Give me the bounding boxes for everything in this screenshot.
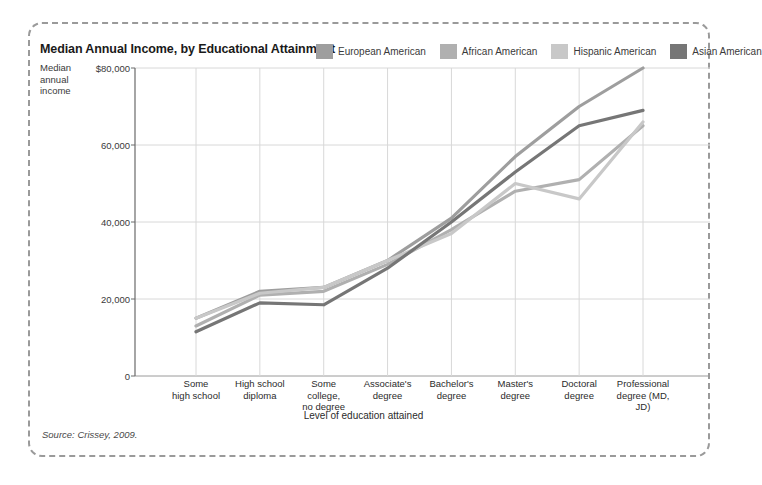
source-note: Source: Crissey, 2009.: [42, 429, 137, 440]
x-tick-label-line: Professional: [600, 378, 686, 390]
legend-swatch-icon: [670, 44, 687, 59]
y-tick-label: 60,000: [74, 140, 130, 151]
legend-label: Hispanic American: [573, 46, 656, 57]
legend-item: African American: [440, 44, 538, 59]
legend-label: European American: [338, 46, 426, 57]
legend-item: European American: [316, 44, 426, 59]
legend-item: Hispanic American: [551, 44, 656, 59]
y-tick-label: 0: [74, 371, 130, 382]
series-line: [196, 126, 643, 326]
legend-item: Asian American: [670, 44, 761, 59]
y-tick-label: 20,000: [74, 294, 130, 305]
plot-svg: [135, 60, 710, 376]
legend-label: Asian American: [692, 46, 761, 57]
legend-label: African American: [462, 46, 538, 57]
legend-swatch-icon: [551, 44, 568, 59]
y-tick-label: 40,000: [74, 217, 130, 228]
x-tick-label-line: degree (MD,: [600, 390, 686, 402]
plot-area: [135, 60, 710, 376]
legend-swatch-icon: [440, 44, 457, 59]
series-line: [196, 68, 643, 318]
chart-title: Median Annual Income, by Educational Att…: [40, 42, 335, 56]
x-tick-label: Professionaldegree (MD,JD): [600, 378, 686, 413]
series-line: [196, 122, 643, 318]
y-axis-tick-labels: 020,00040,00060,000$80,000: [72, 60, 130, 376]
y-tick-label: $80,000: [74, 63, 130, 74]
x-axis-title: Level of education attained: [0, 410, 727, 421]
legend-swatch-icon: [316, 44, 333, 59]
chart-legend: European AmericanAfrican AmericanHispani…: [316, 44, 762, 59]
